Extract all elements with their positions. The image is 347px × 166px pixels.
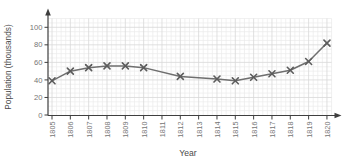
x-tick-label: 1811	[158, 122, 167, 138]
y-tick-label: 60	[34, 58, 42, 67]
y-tick-label: 0	[38, 111, 42, 120]
population-by-year-chart: 0204060801001805180618071808180918101811…	[0, 0, 347, 166]
x-tick-label: 1805	[48, 122, 57, 138]
y-tick-label: 100	[30, 23, 43, 32]
y-tick-label: 40	[34, 76, 42, 85]
chart-canvas: 0204060801001805180618071808180918101811…	[0, 0, 347, 166]
x-axis-title: Year	[179, 148, 197, 158]
x-tick-label: 1808	[103, 122, 112, 138]
x-tick-label: 1817	[268, 122, 277, 138]
x-tick-label: 1820	[323, 122, 332, 138]
x-tick-label: 1810	[140, 122, 149, 138]
y-tick-label: 20	[34, 93, 42, 102]
x-tick-label: 1816	[250, 122, 259, 138]
x-tick-label: 1807	[85, 122, 94, 138]
x-tick-label: 1814	[213, 122, 222, 138]
x-tick-label: 1815	[231, 122, 240, 138]
x-tick-label: 1818	[286, 122, 295, 138]
x-tick-label: 1813	[195, 122, 204, 138]
x-tick-label: 1819	[305, 122, 314, 138]
x-tick-label: 1812	[176, 122, 185, 138]
y-axis-arrow-icon	[45, 9, 51, 16]
y-tick-label: 80	[34, 40, 42, 49]
y-axis-title: Population (thousands)	[3, 24, 13, 110]
x-tick-label: 1809	[121, 122, 130, 138]
x-axis-arrow-icon	[335, 113, 342, 119]
x-tick-label: 1806	[66, 122, 75, 138]
